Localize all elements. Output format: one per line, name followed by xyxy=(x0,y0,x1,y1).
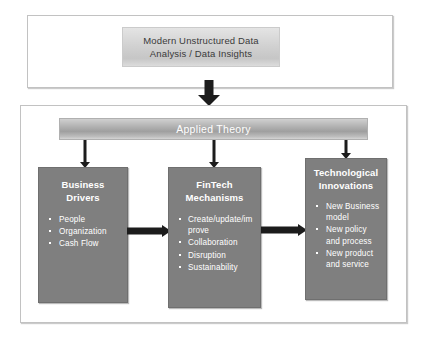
technological-innovations-title-line-2: Innovations xyxy=(319,180,373,191)
technological-innovations-title: Technological Innovations xyxy=(306,167,386,192)
title-box: Modern Unstructured Data Analysis / Data… xyxy=(122,27,280,67)
fintech-mechanisms-box: FinTech Mechanisms Create/update/improve… xyxy=(168,167,261,308)
title-box-line-1: Modern Unstructured Data xyxy=(143,35,259,46)
applied-theory-bar: Applied Theory xyxy=(59,118,368,140)
technological-innovations-box: Technological Innovations New Business m… xyxy=(305,158,387,300)
arrow-fintech-mechanisms-to-technological-innovations-icon xyxy=(261,224,307,236)
list-item: New policy and process xyxy=(306,224,386,246)
applied-theory-label: Applied Theory xyxy=(176,123,251,135)
fintech-mechanisms-title: FinTech Mechanisms xyxy=(169,179,260,204)
arrow-stem xyxy=(127,228,163,235)
technological-innovations-title-line-1: Technological xyxy=(314,167,378,178)
list-item: Cash Flow xyxy=(39,238,127,249)
list-item: New Business model xyxy=(306,201,386,223)
fintech-mechanisms-list: Create/update/improve Collaboration Disr… xyxy=(169,214,260,273)
title-box-line-2: Analysis / Data Insights xyxy=(150,48,252,59)
technological-innovations-list: New Business model New policy and proces… xyxy=(306,201,386,270)
list-item: Collaboration xyxy=(169,237,260,248)
fintech-mechanisms-title-line-1: FinTech xyxy=(196,179,232,190)
list-item: Sustainability xyxy=(169,262,260,273)
arrow-stem xyxy=(84,140,87,162)
title-box-text: Modern Unstructured Data Analysis / Data… xyxy=(143,34,259,60)
list-item: People xyxy=(39,214,127,225)
list-item: New product and service xyxy=(306,248,386,270)
arrow-stem xyxy=(345,140,348,153)
arrow-stem xyxy=(205,80,214,96)
arrow-business-drivers-to-fintech-mechanisms-icon xyxy=(127,225,171,237)
list-item: Organization xyxy=(39,226,127,237)
list-item: Disruption xyxy=(169,250,260,261)
diagram-canvas: Modern Unstructured Data Analysis / Data… xyxy=(0,0,423,342)
business-drivers-box: Business Drivers People Organization Cas… xyxy=(38,167,128,303)
arrow-theory-to-business-drivers-icon xyxy=(80,140,90,168)
business-drivers-title-line-2: Drivers xyxy=(66,192,99,203)
fintech-mechanisms-title-line-2: Mechanisms xyxy=(185,192,243,203)
business-drivers-list: People Organization Cash Flow xyxy=(39,214,127,250)
arrow-stem xyxy=(213,140,216,162)
business-drivers-title: Business Drivers xyxy=(39,179,127,204)
arrow-title-to-framework-icon xyxy=(198,80,220,106)
business-drivers-title-line-1: Business xyxy=(61,179,104,190)
list-item: Create/update/improve xyxy=(169,214,260,236)
arrow-stem xyxy=(261,227,299,234)
arrow-theory-to-technological-innovations-icon xyxy=(341,140,351,159)
arrow-theory-to-fintech-mechanisms-icon xyxy=(209,140,219,168)
